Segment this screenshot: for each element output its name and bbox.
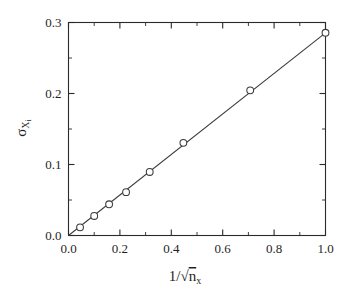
y-tick-label: 0.2 xyxy=(45,86,61,101)
y-tick-label: 0.3 xyxy=(45,15,61,30)
x-tick-label: 0.0 xyxy=(60,241,76,256)
x-title-numerator: 1 xyxy=(169,268,177,284)
data-point xyxy=(123,189,130,196)
x-tick-label: 0.6 xyxy=(215,241,232,256)
data-point xyxy=(106,201,113,208)
y-tick-label: 0.1 xyxy=(45,157,61,172)
figure-container: 0.00.20.40.60.81.0 0.00.10.20.3 1/√nx σX… xyxy=(0,0,355,293)
data-point xyxy=(247,87,254,94)
x-tick-label: 1.0 xyxy=(317,241,333,256)
data-point xyxy=(322,29,329,36)
scatter-plot: 0.00.20.40.60.81.0 0.00.10.20.3 1/√nx σX… xyxy=(0,0,355,293)
x-tick-label: 0.8 xyxy=(266,241,282,256)
x-tick-label: 0.4 xyxy=(163,241,180,256)
y-tick-label: 0.0 xyxy=(45,228,61,243)
x-title-radicand-subscript: x xyxy=(196,275,201,286)
y-title-sigma: σ xyxy=(13,129,29,137)
data-point xyxy=(91,213,98,220)
data-point xyxy=(146,169,153,176)
x-tick-label: 0.2 xyxy=(112,241,128,256)
data-point xyxy=(77,224,84,231)
data-point xyxy=(180,139,187,146)
